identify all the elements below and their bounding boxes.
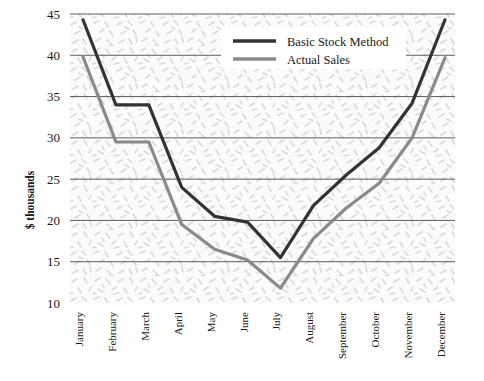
y-axis-tick-label: 25 bbox=[47, 172, 60, 187]
x-axis-tick-label: September bbox=[336, 312, 348, 359]
y-axis-tick-label: 10 bbox=[47, 296, 60, 311]
x-axis-tick-labels: JanuaryFebruaryMarchAprilMayJuneJulyAugu… bbox=[73, 312, 447, 360]
y-axis-tick-label: 15 bbox=[47, 254, 60, 269]
x-axis-tick-label: February bbox=[106, 312, 118, 352]
y-axis-tick-label: 40 bbox=[47, 48, 60, 63]
x-axis-tick-label: December bbox=[435, 312, 447, 358]
line-chart: 1015202530354045 JanuaryFebruaryMarchApr… bbox=[0, 0, 484, 381]
y-axis-tick-label: 45 bbox=[47, 7, 60, 22]
x-axis-tick-label: August bbox=[303, 312, 315, 344]
x-axis-tick-label: May bbox=[205, 312, 217, 333]
x-axis-tick-label: October bbox=[369, 312, 381, 348]
legend-label-basic-stock-method: Basic Stock Method bbox=[287, 35, 389, 49]
x-axis-tick-label: January bbox=[73, 312, 85, 347]
x-axis-tick-label: April bbox=[172, 312, 184, 335]
chart-legend: Basic Stock Method Actual Sales bbox=[221, 27, 406, 69]
y-axis-tick-label: 35 bbox=[47, 89, 60, 104]
x-axis-tick-label: June bbox=[238, 312, 250, 332]
y-axis-tick-label: 20 bbox=[47, 213, 60, 228]
x-axis-tick-label: July bbox=[270, 312, 282, 331]
y-axis-tick-labels: 1015202530354045 bbox=[47, 7, 60, 311]
chart-container: 1015202530354045 JanuaryFebruaryMarchApr… bbox=[0, 0, 484, 381]
x-axis-tick-label: March bbox=[139, 312, 151, 341]
x-axis-tick-label: November bbox=[402, 312, 414, 359]
y-axis-tick-label: 30 bbox=[47, 130, 60, 145]
legend-label-actual-sales: Actual Sales bbox=[287, 53, 350, 67]
y-axis-title: $ thousands bbox=[24, 170, 36, 229]
